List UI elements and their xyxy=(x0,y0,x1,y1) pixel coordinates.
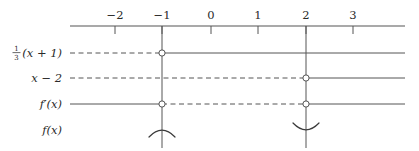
row-one-third-x-plus-1-open-circle-0 xyxy=(159,50,165,56)
fraction-denominator: 3 xyxy=(14,54,18,62)
sign-chart-figure: −2−10123 1 3 (x + 1) x − 2 f′(x) f(x) xyxy=(0,0,419,151)
row-label-x-minus-2: x − 2 xyxy=(31,71,62,85)
fraction-numerator: 1 xyxy=(14,45,18,53)
row-segments-group xyxy=(70,53,405,104)
critical-lines-group xyxy=(162,26,306,148)
row-f-prime-x-open-circle-0 xyxy=(159,101,165,107)
tick-label-2: 0 xyxy=(207,8,214,22)
tick-label-3: 1 xyxy=(254,8,261,22)
tick-label-5: 3 xyxy=(349,8,356,22)
tick-marks-group xyxy=(115,26,353,34)
row-f-prime-x-open-circle-1 xyxy=(303,101,309,107)
row-label-one-third-x-plus-1: 1 3 (x + 1) xyxy=(13,45,63,62)
tick-label-4: 2 xyxy=(302,8,309,22)
row-x-minus-2-open-circle-0 xyxy=(303,75,309,81)
tick-label-0: −2 xyxy=(107,8,124,22)
row-label-f-x: f(x) xyxy=(41,123,62,137)
row-labels-group: 1 3 (x + 1) x − 2 f′(x) f(x) xyxy=(13,45,63,138)
tick-labels-group: −2−10123 xyxy=(107,8,357,22)
row-label-f-prime-x: f′(x) xyxy=(39,97,62,111)
tick-label-1: −1 xyxy=(154,8,171,22)
concavity-arcs-group xyxy=(149,123,319,137)
row-label-one-third-rest: (x + 1) xyxy=(22,46,62,60)
sign-chart-canvas: −2−10123 1 3 (x + 1) x − 2 f′(x) f(x) xyxy=(0,0,419,151)
number-line-group: −2−10123 xyxy=(70,8,405,34)
